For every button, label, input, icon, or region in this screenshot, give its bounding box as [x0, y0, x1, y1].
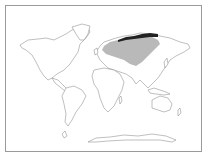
australia — [152, 96, 172, 112]
south-georgia — [62, 131, 67, 138]
africa — [92, 68, 124, 112]
southeast-asia-islands — [148, 88, 170, 95]
antarctica — [88, 134, 176, 142]
madagascar — [119, 96, 122, 104]
south-america — [62, 86, 86, 126]
new-zealand — [178, 108, 181, 116]
world-map — [0, 0, 206, 155]
